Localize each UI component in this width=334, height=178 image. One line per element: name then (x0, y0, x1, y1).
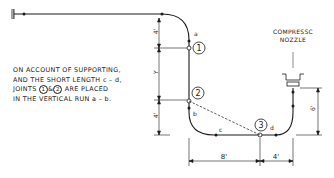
joint-3-label: 3 (258, 121, 263, 130)
nozzle-label-line2: NOZZLE (280, 36, 306, 43)
dashed-reference-line (189, 101, 260, 135)
dim-horizontal-left: 8' (221, 153, 227, 161)
point-b-label: b (193, 110, 197, 117)
note-line-3: JOINTS 1&2 ARE PLACED (13, 85, 163, 95)
joint-2-label: 2 (195, 89, 200, 98)
point-c-label: c (219, 126, 222, 133)
dim-lower-vertical: 4' (152, 112, 159, 118)
dim-top-vertical: 4' (152, 28, 159, 34)
anchor-icon (11, 9, 14, 19)
nozzle-label-line1: COMPRESSC (273, 28, 313, 35)
note-placed-word: ARE PLACED (65, 85, 109, 93)
note-line-4: IN THE VERTICAL RUN a – b. (13, 95, 163, 105)
note-joints-word: JOINTS (13, 85, 37, 93)
note-line-2: AND THE SHORT LENGTH c – d, (13, 76, 163, 86)
point-a-label: a (194, 30, 198, 37)
note-joint-2-circle: 2 (53, 85, 62, 94)
note-joint-1-circle: 1 (39, 85, 48, 94)
joint-labels (192, 42, 267, 131)
point-d-label: d (270, 124, 274, 131)
note-line-1: ON ACCOUNT OF SUPPORTING, (13, 66, 163, 76)
dim-right-vertical: 6' (309, 105, 316, 111)
bottom-dimension-lines (189, 138, 293, 166)
compressor-nozzle-icon (282, 52, 304, 86)
joint-1-label: 1 (196, 44, 201, 53)
dim-horizontal-right: 4' (273, 153, 279, 161)
explanation-note: ON ACCOUNT OF SUPPORTING, AND THE SHORT … (13, 66, 163, 105)
